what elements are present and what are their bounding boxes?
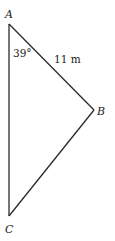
side-bc	[9, 110, 94, 216]
side-ab	[9, 24, 94, 110]
vertex-label-b: B	[96, 105, 105, 118]
vertex-label-c: C	[5, 223, 14, 236]
angle-label-a: 39°	[13, 47, 32, 59]
vertex-label-a: A	[4, 8, 13, 21]
triangle-diagram: A B C 39° 11 m	[0, 0, 115, 241]
side-label-ab: 11 m	[54, 53, 81, 65]
